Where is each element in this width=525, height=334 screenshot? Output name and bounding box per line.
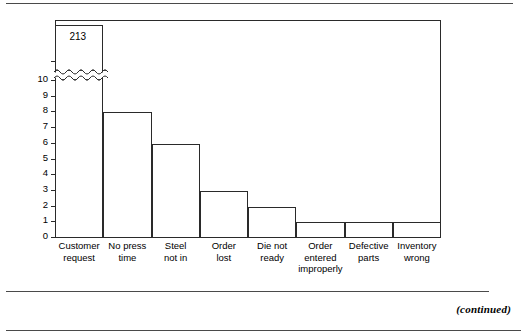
bar-customer-request[interactable] [55, 25, 103, 238]
bar-defective-parts[interactable] [345, 222, 393, 238]
x-axis-category-label: Inventory wrong [387, 240, 447, 263]
bar-order-entered-improperly[interactable] [296, 222, 344, 238]
bar-inventory-wrong[interactable] [393, 222, 441, 238]
bar-steel-not-in[interactable] [152, 144, 200, 238]
page-rule-bottom [6, 330, 521, 331]
bar-value-label-customer-request: 213 [69, 32, 86, 42]
continued-note: (continued) [456, 303, 511, 315]
bar-die-not-ready[interactable] [248, 207, 296, 238]
x-axis-category-labels: Customer requestNo press timeSteel not i… [0, 240, 525, 295]
bar-no-press-time[interactable] [103, 112, 151, 238]
axis-break-squiggle-icon [48, 67, 110, 83]
bar-order-lost[interactable] [200, 191, 248, 238]
pareto-chart-figure: 012345678910 213 Customer requestNo pres… [0, 0, 525, 295]
